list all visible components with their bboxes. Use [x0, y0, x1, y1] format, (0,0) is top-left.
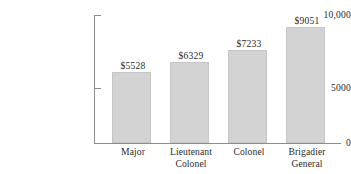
x-axis-category-labels: Major Lieutenant Colonel Colonel Brigadi…: [95, 146, 341, 174]
category-label-colonel: Colonel: [216, 146, 282, 158]
bar-group-brigadier-general: $9051: [278, 15, 336, 143]
category-label-lieutenant-colonel-line2: Colonel: [158, 158, 224, 170]
category-label-brigadier-general-line1: Brigadier: [274, 146, 340, 158]
category-label-lieutenant-colonel: Lieutenant Colonel: [158, 146, 224, 169]
bar-group-lieutenant-colonel: $6329: [162, 15, 220, 143]
bar-value-major: $5528: [104, 60, 162, 71]
category-label-colonel-line1: Colonel: [216, 146, 282, 158]
x-axis-line: [94, 143, 341, 144]
bar-group-colonel: $7233: [220, 15, 278, 143]
bar-brigadier-general[interactable]: [286, 27, 325, 143]
bar-lieutenant-colonel[interactable]: [170, 62, 209, 143]
bar-colonel[interactable]: [228, 50, 267, 143]
category-label-brigadier-general-line2: General: [274, 158, 340, 170]
bar-value-brigadier-general: $9051: [278, 15, 336, 26]
bar-value-lieutenant-colonel: $6329: [162, 50, 220, 61]
category-label-major: Major: [100, 146, 166, 158]
bar-value-colonel: $7233: [220, 38, 278, 49]
category-label-brigadier-general: Brigadier General: [274, 146, 340, 169]
bar-chart: Basic Monthly Pay (in dollars) 10,000 50…: [0, 0, 351, 174]
bar-major[interactable]: [112, 72, 151, 143]
plot-area: $5528 $6329 $7233 $9051: [95, 15, 341, 143]
category-label-major-line1: Major: [100, 146, 166, 158]
category-label-lieutenant-colonel-line1: Lieutenant: [158, 146, 224, 158]
bar-group-major: $5528: [104, 15, 162, 143]
